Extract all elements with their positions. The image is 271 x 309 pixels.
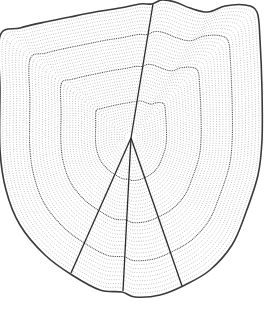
fish-scale-figure <box>0 0 271 309</box>
radius-line <box>131 138 182 286</box>
radius-line <box>71 138 131 273</box>
scale-outline <box>0 0 262 297</box>
fish-scale-drawing <box>0 0 271 309</box>
radius-line <box>131 4 153 138</box>
